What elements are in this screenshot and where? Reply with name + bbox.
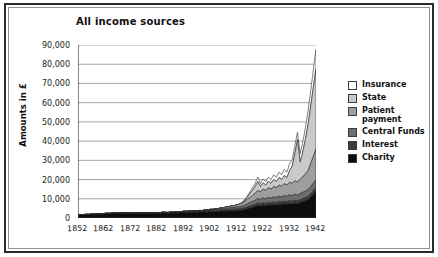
x-tick-label: 1922 — [252, 224, 273, 233]
legend-label: State — [362, 93, 386, 102]
y-axis-ticks: 90,00080,00070,00060,00050,00040,00030,0… — [22, 0, 70, 257]
y-tick-label: 10,000 — [22, 194, 70, 203]
x-tick-label: 1862 — [93, 224, 114, 233]
legend-swatch-icon — [348, 81, 357, 90]
legend-swatch-icon — [348, 141, 357, 150]
chart-legend: InsuranceStatePatient paymentCentral Fun… — [348, 80, 434, 166]
x-tick-label: 1872 — [120, 224, 141, 233]
legend-swatch-icon — [348, 128, 357, 137]
plot-area — [78, 45, 316, 218]
y-tick-label: 50,000 — [22, 117, 70, 126]
y-tick-label: 70,000 — [22, 79, 70, 88]
x-tick-label: 1942 — [305, 224, 326, 233]
legend-item[interactable]: Interest — [348, 140, 434, 150]
legend-label: Patient payment — [362, 106, 401, 124]
legend-item[interactable]: Central Funds — [348, 127, 434, 137]
y-tick-label: 40,000 — [22, 137, 70, 146]
legend-item[interactable]: Charity — [348, 153, 434, 163]
legend-swatch-icon — [348, 107, 357, 116]
y-tick-label: 60,000 — [22, 98, 70, 107]
chart-title: All income sources — [76, 16, 185, 27]
y-tick-label: 0 — [22, 214, 70, 223]
legend-swatch-icon — [348, 94, 357, 103]
x-tick-label: 1882 — [146, 224, 167, 233]
x-axis-ticks: 1852186218721882189219021912192219321942 — [0, 224, 438, 244]
y-tick-label: 90,000 — [22, 41, 70, 50]
x-tick-label: 1892 — [173, 224, 194, 233]
x-tick-label: 1932 — [278, 224, 299, 233]
x-tick-label: 1902 — [199, 224, 220, 233]
legend-item[interactable]: State — [348, 93, 434, 103]
y-tick-label: 30,000 — [22, 156, 70, 165]
x-tick-label: 1852 — [67, 224, 88, 233]
legend-item[interactable]: Patient payment — [348, 106, 434, 124]
y-tick-label: 80,000 — [22, 60, 70, 69]
legend-label: Central Funds — [362, 127, 425, 136]
legend-label: Interest — [362, 140, 398, 149]
legend-label: Insurance — [362, 80, 406, 89]
y-tick-label: 20,000 — [22, 175, 70, 184]
legend-label: Charity — [362, 153, 395, 162]
legend-swatch-icon — [348, 154, 357, 163]
x-tick-label: 1912 — [226, 224, 247, 233]
legend-item[interactable]: Insurance — [348, 80, 434, 90]
stacked-area-chart — [78, 45, 316, 218]
figure-root: All income sources Amounts in £ 90,00080… — [0, 0, 438, 257]
